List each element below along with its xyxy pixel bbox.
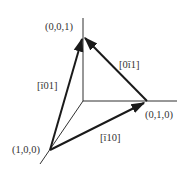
direction-label-011: [0ī1] (119, 59, 139, 70)
vertex-label-001: (0,0,1) (45, 21, 73, 33)
crystal-direction-diagram: (0,0,1) (0,1,0) (1,0,0) [ī01] [0ī1] [ī10… (0, 0, 185, 172)
vertex-label-010: (0,1,0) (145, 109, 173, 121)
vertex-label-100: (1,0,0) (12, 144, 40, 156)
direction-label-110: [ī10] (100, 132, 120, 143)
vector-101 (50, 39, 82, 150)
vector-110 (50, 103, 144, 150)
direction-label-101: [ī01] (37, 80, 57, 91)
